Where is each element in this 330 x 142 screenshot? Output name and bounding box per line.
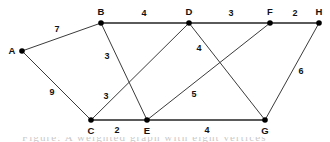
edge-weight-a-b: 7	[54, 25, 59, 34]
edge-weight-d-f: 3	[228, 9, 233, 18]
edge-layer	[22, 23, 319, 120]
node-b	[98, 20, 104, 26]
node-label-c: C	[87, 126, 94, 136]
node-label-a: A	[8, 46, 15, 56]
edge-weight-b-e: 3	[104, 52, 109, 61]
edge-weight-g-h: 6	[298, 67, 303, 76]
graph-canvas	[0, 0, 330, 142]
node-a	[19, 48, 25, 54]
edge-g-h	[265, 23, 319, 120]
figure-caption-text: Figure: A weighted graph with eight vert…	[22, 137, 267, 142]
node-label-g: G	[261, 126, 269, 136]
node-label-h: H	[315, 7, 322, 17]
edge-e-f	[147, 23, 270, 120]
edge-weight-a-c: 9	[49, 88, 54, 97]
node-g	[262, 117, 268, 123]
edge-weight-c-e: 2	[114, 126, 119, 135]
node-c	[88, 117, 94, 123]
node-label-e: E	[144, 126, 151, 136]
edge-weight-b-d: 4	[141, 9, 146, 18]
weighted-graph-figure: 794332345426ABCDEFGH Figure: A weighted …	[0, 0, 330, 142]
edge-d-g	[189, 23, 265, 120]
edge-weight-f-h: 2	[292, 9, 297, 18]
figure-caption-sliver: Figure: A weighted graph with eight vert…	[0, 137, 330, 142]
node-label-f: F	[267, 7, 273, 17]
node-label-b: B	[97, 7, 104, 17]
edge-weight-c-d: 3	[103, 92, 108, 101]
node-h	[316, 20, 322, 26]
node-f	[267, 20, 273, 26]
edge-a-c	[22, 51, 91, 120]
node-d	[186, 20, 192, 26]
node-label-d: D	[185, 7, 192, 17]
node-e	[144, 117, 150, 123]
edge-weight-d-g: 4	[196, 44, 201, 53]
edge-weight-e-g: 4	[204, 126, 209, 135]
edge-weight-e-f: 5	[191, 90, 196, 99]
edge-a-b	[22, 23, 101, 51]
